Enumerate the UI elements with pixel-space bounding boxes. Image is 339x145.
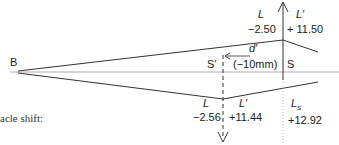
s-prime-label: S′ bbox=[207, 58, 216, 70]
upper-lprime-value: + 11.50 bbox=[287, 23, 323, 35]
optics-diagram: B acle shift: L −2.50 L′ + 11.50 d′ (−10… bbox=[0, 0, 339, 145]
upper-l-value: −2.50 bbox=[248, 23, 276, 35]
lower-lprime-label: L′ bbox=[239, 97, 248, 109]
upper-l-label: L bbox=[258, 8, 264, 20]
diagram-svg: B acle shift: L −2.50 L′ + 11.50 d′ (−10… bbox=[0, 0, 339, 145]
ls-label: Ls bbox=[291, 97, 301, 112]
lower-lprime-value: +11.44 bbox=[229, 111, 262, 123]
upper-ray-refracted bbox=[283, 40, 318, 52]
ls-value: +12.92 bbox=[288, 114, 322, 126]
lower-l-label: L bbox=[203, 97, 209, 109]
lower-ray-refracted bbox=[223, 82, 318, 99]
d-prime-label: d′ bbox=[249, 42, 258, 54]
d-prime-value: (−10mm) bbox=[233, 58, 277, 70]
lower-ray bbox=[18, 73, 223, 99]
ls-label-subscript: s bbox=[297, 103, 301, 112]
caption-fragment: acle shift: bbox=[0, 112, 43, 124]
lower-l-value: −2.56 bbox=[193, 111, 221, 123]
s-label: S bbox=[287, 58, 294, 70]
upper-lprime-label: L′ bbox=[296, 8, 305, 20]
point-b-label: B bbox=[10, 56, 17, 68]
